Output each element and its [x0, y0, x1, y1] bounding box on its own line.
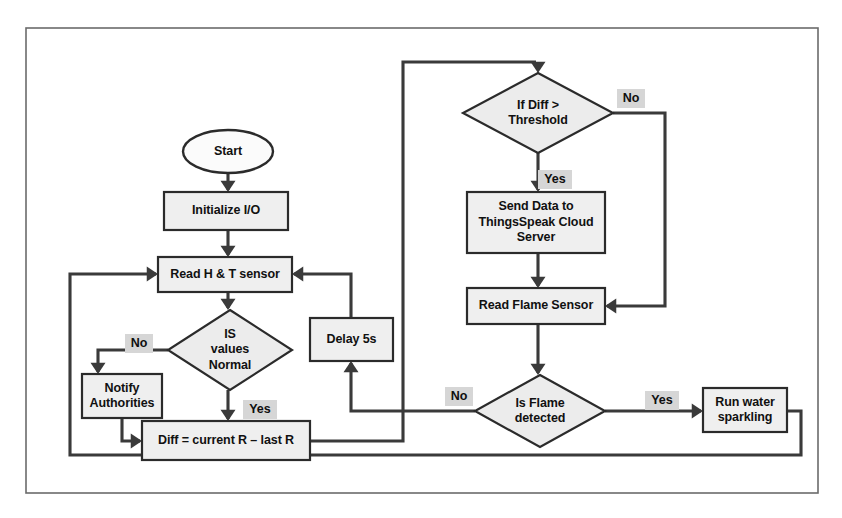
node-initialize-io[interactable]: Initialize I/O [164, 192, 288, 230]
node-label: Run water [715, 395, 775, 409]
branch-label-no-flame-detected: No [445, 387, 473, 406]
node-label: Diff = current R – last R [158, 433, 294, 447]
node-label: Initialize I/O [192, 203, 260, 217]
branch-label-text: Yes [651, 393, 673, 407]
node-label: If Diff > [517, 98, 559, 112]
branch-label-text: No [451, 389, 468, 403]
node-label: Read Flame Sensor [479, 298, 594, 312]
branch-label-no-values-normal: No [125, 334, 153, 353]
node-delay-5s[interactable]: Delay 5s [310, 318, 393, 361]
branch-label-no-diff-threshold: No [617, 89, 645, 108]
node-notify-authorities[interactable]: NotifyAuthorities [82, 374, 162, 418]
node-read-ht-sensor[interactable]: Read H & T sensor [158, 257, 292, 292]
node-label: Authorities [90, 396, 155, 410]
node-label: Delay 5s [327, 332, 377, 346]
flowchart-canvas: StartInitialize I/ORead H & T sensorISva… [0, 0, 842, 518]
node-label: Start [214, 144, 243, 158]
branch-label-text: Yes [249, 402, 271, 416]
node-label: Read H & T sensor [170, 267, 280, 281]
node-label: Server [517, 230, 556, 244]
node-start[interactable]: Start [183, 130, 273, 173]
node-label: Send Data to [498, 199, 574, 213]
node-label: Notify [105, 381, 140, 395]
node-label: detected [515, 411, 566, 425]
branch-label-text: No [131, 336, 148, 350]
node-label: values [211, 342, 249, 356]
node-label: sparkling [718, 410, 773, 424]
branch-label-yes-diff-threshold: Yes [538, 170, 572, 189]
node-label: Threshold [508, 113, 568, 127]
node-label: Is Flame [515, 396, 564, 410]
branch-label-text: Yes [544, 172, 566, 186]
branch-label-text: No [623, 91, 640, 105]
branch-label-yes-values-normal: Yes [243, 400, 277, 419]
node-diff-calc[interactable]: Diff = current R – last R [142, 421, 310, 460]
node-label: ThingsSpeak Cloud [479, 215, 594, 229]
branch-label-yes-flame-detected: Yes [645, 391, 679, 410]
node-send-data-cloud[interactable]: Send Data toThingsSpeak CloudServer [467, 192, 605, 253]
node-label: IS [224, 327, 236, 341]
node-label: Normal [209, 358, 251, 372]
flowchart-svg: StartInitialize I/ORead H & T sensorISva… [0, 0, 842, 518]
node-run-water-sparkling[interactable]: Run watersparkling [703, 388, 787, 432]
node-read-flame-sensor[interactable]: Read Flame Sensor [467, 288, 605, 324]
